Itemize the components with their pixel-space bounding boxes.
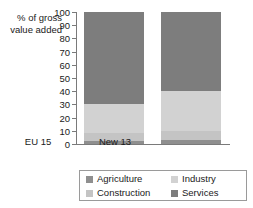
legend-label: Construction [97, 188, 150, 198]
bar-segment-construction [161, 131, 221, 140]
bar-segment-industry [84, 104, 144, 133]
bar-segment-services [161, 12, 221, 91]
legend-item-construction: Construction [86, 186, 171, 200]
bar-segment-industry [161, 91, 221, 131]
y-tick-label: 10 [44, 126, 70, 136]
y-tick-label: 100 [44, 8, 70, 18]
bar-segment-services [84, 12, 144, 104]
stacked-bar-chart: % of gross value added 01020304050607080… [0, 0, 253, 208]
y-tick-mark [72, 52, 76, 53]
bar-new-13 [161, 12, 221, 144]
legend-swatch-icon [171, 190, 178, 197]
y-tick-mark [72, 144, 76, 145]
y-axis-line [76, 12, 77, 145]
y-tick-label: 80 [44, 34, 70, 44]
y-tick-mark [72, 12, 76, 13]
legend-item-industry: Industry [171, 172, 253, 186]
y-tick-mark [72, 131, 76, 132]
legend-label: Industry [182, 174, 216, 184]
y-tick-label: 60 [44, 60, 70, 70]
bar-segment-agriculture [161, 140, 221, 144]
legend-swatch-icon [86, 176, 93, 183]
legend-swatch-icon [171, 176, 178, 183]
y-tick-mark [72, 104, 76, 105]
chart-legend: AgricultureIndustryConstructionServices [79, 170, 247, 201]
y-tick-mark [72, 118, 76, 119]
y-tick-label: 50 [44, 74, 70, 84]
y-tick-mark [72, 25, 76, 26]
category-label-eu-15: EU 15 [8, 136, 68, 147]
y-tick-mark [72, 65, 76, 66]
y-tick-label: 40 [44, 87, 70, 97]
y-tick-mark [72, 91, 76, 92]
y-tick-label: 30 [44, 100, 70, 110]
legend-item-services: Services [171, 186, 253, 200]
category-label-new-13: New 13 [85, 136, 145, 147]
legend-swatch-icon [86, 190, 93, 197]
y-tick-mark [72, 38, 76, 39]
bar-eu-15 [84, 12, 144, 144]
y-tick-label: 20 [44, 113, 70, 123]
y-tick-label: 70 [44, 47, 70, 57]
y-tick-label: 90 [44, 21, 70, 31]
legend-label: Services [182, 188, 218, 198]
plot-area: 0102030405060708090100 [76, 12, 229, 144]
legend-item-agriculture: Agriculture [86, 172, 171, 186]
y-tick-mark [72, 78, 76, 79]
legend-label: Agriculture [97, 174, 142, 184]
